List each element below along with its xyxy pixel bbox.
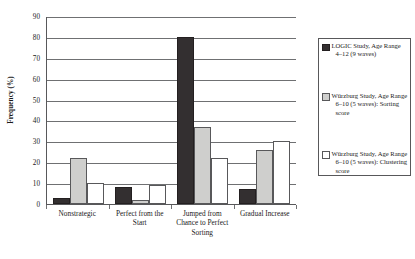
y-axis-title-text: Frequency (%) [7, 76, 15, 124]
gray-filled-square-icon [322, 93, 330, 101]
y-axis-tick-label: 0 [36, 201, 40, 209]
y-axis-tick-label: 10 [33, 180, 40, 188]
x-axis-category-label: Gradual Increase [234, 209, 297, 237]
white-open-square-icon [322, 151, 330, 159]
bar [70, 158, 87, 204]
bars-layer [47, 17, 296, 204]
bar [211, 158, 228, 204]
y-axis-tick-label: 70 [33, 55, 40, 63]
legend-entry-wuerzburg-clustering: Würzburg Study, Age Range 6–10 (5 waves)… [322, 150, 408, 175]
bar [53, 198, 70, 204]
legend-spacer [322, 124, 408, 142]
legend-entry-logic: LOGIC Study, Age Range 4–12 (9 waves) [322, 42, 408, 59]
legend-entry-wuerzburg-sorting: Würzburg Study, Age Range 6–10 (5 waves)… [322, 92, 408, 117]
bar [149, 185, 166, 204]
bar-group [234, 17, 296, 204]
bar [87, 183, 104, 204]
y-axis-tick-label: 80 [33, 34, 40, 42]
chart-legend: LOGIC Study, Age Range 4–12 (9 waves) Wü… [318, 38, 411, 176]
x-axis-category-label: Nonstrategic [46, 209, 109, 237]
bar [273, 141, 290, 204]
bar-group [172, 17, 234, 204]
y-axis-tick-label: 30 [33, 138, 40, 146]
y-axis-tick-label: 40 [33, 117, 40, 125]
legend-spacer [322, 66, 408, 84]
y-axis-tick-labels: 0102030405060708090 [16, 17, 42, 205]
bar [239, 189, 256, 204]
y-axis-tick-label: 50 [33, 97, 40, 105]
bar [194, 127, 211, 204]
y-axis-tick-label: 90 [33, 13, 40, 21]
bar-group [109, 17, 171, 204]
plot-area [46, 17, 296, 205]
bar [177, 37, 194, 204]
y-axis-tick-label: 20 [33, 159, 40, 167]
bar-chart-figure: Frequency (%) 0102030405060708090 Nonstr… [0, 0, 415, 259]
x-axis-tick [296, 205, 297, 209]
y-axis-tick-label: 60 [33, 76, 40, 84]
black-filled-square-icon [322, 44, 330, 52]
bar [132, 200, 149, 204]
legend-entry-label: LOGIC Study, Age Range 4–12 (9 waves) [332, 42, 409, 59]
legend-entry-label: Würzburg Study, Age Range 6–10 (5 waves)… [332, 92, 409, 117]
x-axis-category-label: Perfect from the Start [109, 209, 172, 237]
x-axis-category-labels: NonstrategicPerfect from the StartJumped… [46, 209, 296, 237]
bar-group [47, 17, 109, 204]
legend-entry-label: Würzburg Study, Age Range 6–10 (5 waves)… [332, 150, 409, 175]
bar [256, 150, 273, 204]
bar [115, 187, 132, 204]
x-axis-category-label: Jumped from Chance to Perfect Sorting [171, 209, 234, 237]
